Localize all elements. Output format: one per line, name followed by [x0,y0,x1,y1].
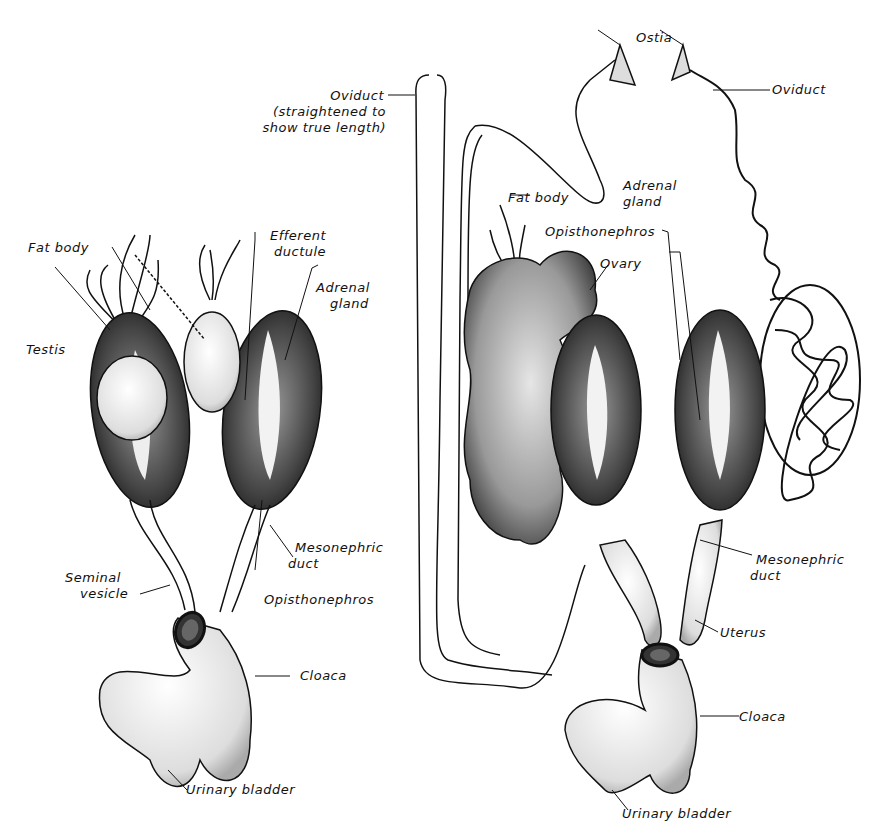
label-fat-body-female: Fat body [508,190,569,205]
label-efferent-ductule-line2: ductule [274,244,326,259]
label-oviduct: Oviduct [772,82,826,97]
label-efferent-ductule-line1: Efferent [270,228,326,243]
label-urinary-bladder-male: Urinary bladder [186,782,295,797]
label-oviduct-straightened-line1: Oviduct [236,88,384,103]
label-cloaca-male: Cloaca [300,668,347,683]
label-cloaca-female: Cloaca [739,709,786,724]
label-mesonephric-duct-male-line1: Mesonephric [295,540,383,555]
label-adrenal-gland-male-line2: gland [330,296,369,311]
label-mesonephric-duct-female-line1: Mesonephric [756,552,844,567]
label-mesonephric-duct-female-line2: duct [750,568,781,583]
label-seminal-vesicle-line1: Seminal [65,570,121,585]
label-urinary-bladder-female: Urinary bladder [622,806,731,821]
label-adrenal-gland-female-line1: Adrenal [623,178,677,193]
male-system [55,232,333,790]
label-adrenal-gland-male-line1: Adrenal [316,280,370,295]
label-ovary: Ovary [600,256,641,271]
label-seminal-vesicle-line2: vesicle [80,586,128,601]
female-system [388,30,860,810]
label-fat-body-male: Fat body [28,240,89,255]
label-adrenal-gland-female-line2: gland [623,194,662,209]
label-mesonephric-duct-male-line2: duct [288,556,319,571]
convoluted-oviduct [760,285,860,500]
label-oviduct-straightened-line3: show true length) [236,120,386,135]
label-uterus: Uterus [720,625,766,640]
label-opisthonephros-male: Opisthonephros [264,592,374,607]
label-oviduct-straightened-line2: (straightened to [236,104,386,119]
label-testis: Testis [26,342,66,357]
label-opisthonephros-female: Opisthonephros [545,224,655,239]
label-ostia: Ostia [636,30,672,45]
